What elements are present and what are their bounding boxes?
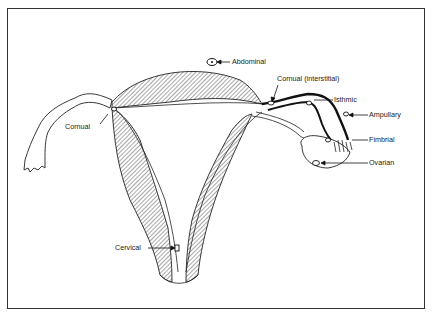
label-cervical: Cervical (115, 244, 141, 251)
label-isthmic: Isthmic (334, 96, 357, 103)
label-cornual-interstitial: Cornual (interstitial) (277, 75, 339, 82)
site-ampullary-marker (344, 112, 349, 116)
site-cornual-interstitial-marker (268, 101, 274, 105)
site-isthmic-marker (307, 101, 312, 105)
uterus-diagram (0, 0, 432, 316)
label-ampullary: Ampullary (369, 111, 401, 118)
label-abdominal: Abdominal (232, 58, 266, 65)
site-cornual-left-marker (112, 107, 117, 111)
left-fallopian-tube (24, 94, 112, 172)
label-ovarian: Ovarian (369, 159, 394, 166)
site-fimbrial-marker (326, 138, 331, 142)
label-fimbrial: Fimbrial (369, 136, 395, 143)
label-cornual: Cornual (65, 123, 90, 130)
right-uterine-wall (186, 114, 252, 282)
site-ovarian-marker (313, 161, 320, 166)
